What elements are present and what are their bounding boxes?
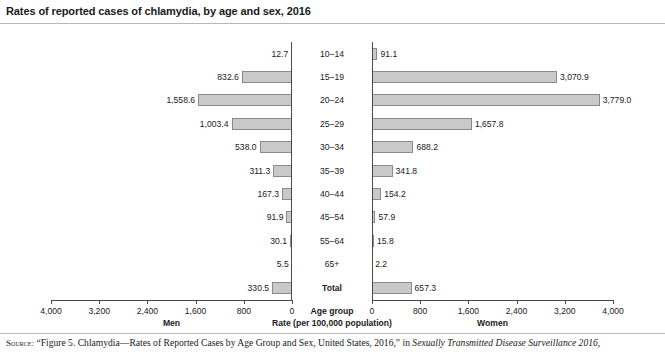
men-bar-cell: 311.3: [0, 165, 292, 177]
women-bar: [372, 94, 600, 106]
women-bar-wrap: 154.2: [372, 188, 665, 200]
men-value-label: 5.5: [277, 259, 292, 269]
men-bar-wrap: 538.0: [0, 141, 292, 153]
axis-tick: [147, 300, 148, 304]
page-title: Rates of reported cases of chlamydia, by…: [6, 5, 311, 17]
women-value-label: 1,657.8: [472, 119, 504, 129]
men-value-label: 1,003.4: [200, 119, 232, 129]
men-bar-cell: 12.7: [0, 48, 292, 60]
age-group-label: 65+: [292, 259, 372, 269]
men-value-label: 30.1: [270, 236, 290, 246]
bar-row: 5.565+2.2: [0, 253, 665, 276]
women-bar-wrap: 15.8: [372, 235, 665, 247]
men-bar-wrap: 1,003.4: [0, 118, 292, 130]
women-bar-wrap: 688.2: [372, 141, 665, 153]
women-bar: [372, 71, 557, 83]
women-value-label: 91.1: [377, 49, 397, 59]
men-bar: [273, 165, 292, 177]
women-value-label: 154.2: [381, 189, 406, 199]
bar-rows: 12.710–1491.1832.615–193,070.91,558.620–…: [0, 42, 665, 299]
men-value-label: 330.5: [248, 283, 273, 293]
source-text: “Figure 5. Chlamydia—Rates of Reported C…: [34, 337, 412, 348]
rate-axis-label: Rate (per 100,000 population): [272, 318, 392, 328]
bar-row: 1,003.425–291,657.8: [0, 112, 665, 135]
axis-tick-label: 800: [413, 306, 427, 316]
women-value-label: 341.8: [393, 166, 418, 176]
right-axis-spine: [372, 42, 373, 300]
age-group-label: 45–54: [292, 212, 372, 222]
axis-tick-label: 0: [370, 306, 375, 316]
women-bar-cell: 2.2: [372, 258, 665, 270]
women-bar-cell: 154.2: [372, 188, 665, 200]
axis-tick-label: 0: [290, 306, 295, 316]
bar-row: 330.5Total657.3: [0, 276, 665, 299]
age-group-label: 40–44: [292, 189, 372, 199]
women-bar-cell: 3,779.0: [372, 94, 665, 106]
source-publication: Sexually Transmitted Disease Surveillanc…: [412, 337, 600, 348]
men-bar-cell: 832.6: [0, 71, 292, 83]
men-bar: [198, 94, 292, 106]
bar-row: 167.340–44154.2: [0, 182, 665, 205]
men-bar: [242, 71, 292, 83]
axis-tick: [565, 300, 566, 304]
axis-tick: [292, 300, 293, 304]
women-bar-cell: 688.2: [372, 141, 665, 153]
axis-tick-label: 1,600: [458, 306, 480, 316]
men-bar-wrap: 1,558.6: [0, 94, 292, 106]
men-axis-title: Men: [163, 318, 180, 328]
men-value-label: 1,558.6: [166, 95, 198, 105]
axis-tick-label: 4,000: [602, 306, 624, 316]
women-value-label: 57.9: [375, 212, 395, 222]
women-bar-wrap: 657.3: [372, 282, 665, 294]
men-bar-cell: 538.0: [0, 141, 292, 153]
age-group-label: 25–29: [292, 119, 372, 129]
women-bar: [372, 188, 381, 200]
axis-tick: [196, 300, 197, 304]
women-bar-wrap: 3,779.0: [372, 94, 665, 106]
women-axis-title: Women: [477, 318, 508, 328]
men-value-label: 91.9: [267, 212, 287, 222]
women-value-label: 2.2: [372, 259, 387, 269]
women-bar-wrap: 1,657.8: [372, 118, 665, 130]
men-axis-line: [51, 300, 292, 301]
men-bar-wrap: 311.3: [0, 165, 292, 177]
axis-tick-label: 1,600: [185, 306, 207, 316]
men-bar: [272, 282, 292, 294]
women-bar-cell: 3,070.9: [372, 71, 665, 83]
women-bar-cell: 341.8: [372, 165, 665, 177]
bar-row: 91.945–5457.9: [0, 206, 665, 229]
women-bar-wrap: 341.8: [372, 165, 665, 177]
age-group-label: 20–24: [292, 95, 372, 105]
axis-tick: [372, 300, 373, 304]
chart-plot-area: 12.710–1491.1832.615–193,070.91,558.620–…: [0, 42, 665, 300]
men-value-label: 832.6: [217, 72, 242, 82]
bar-row: 538.030–34688.2: [0, 136, 665, 159]
men-bar-cell: 5.5: [0, 258, 292, 270]
women-value-label: 688.2: [413, 142, 438, 152]
men-bar-cell: 91.9: [0, 211, 292, 223]
men-bar-wrap: 832.6: [0, 71, 292, 83]
axis-tick: [51, 300, 52, 304]
men-bar-cell: 1,003.4: [0, 118, 292, 130]
men-bar-wrap: 30.1: [0, 235, 292, 247]
axis-tick-label: 800: [237, 306, 251, 316]
men-value-label: 12.7: [272, 49, 292, 59]
title-divider: [0, 23, 665, 24]
bar-row: 311.335–39341.8: [0, 159, 665, 182]
axis-tick-label: 3,200: [88, 306, 110, 316]
women-bar: [372, 165, 393, 177]
women-bar: [372, 141, 413, 153]
age-group-label: 10–14: [292, 49, 372, 59]
bar-row: 1,558.620–243,779.0: [0, 89, 665, 112]
women-bar-wrap: 91.1: [372, 48, 665, 60]
axis-tick-label: 4,000: [40, 306, 62, 316]
age-group-label: 35–39: [292, 166, 372, 176]
women-bar-cell: 1,657.8: [372, 118, 665, 130]
women-value-label: 3,070.9: [557, 72, 589, 82]
bar-row: 832.615–193,070.9: [0, 65, 665, 88]
men-value-label: 538.0: [235, 142, 260, 152]
women-bar-cell: 15.8: [372, 235, 665, 247]
men-value-label: 167.3: [257, 189, 282, 199]
women-value-label: 15.8: [374, 236, 394, 246]
women-bar: [372, 282, 412, 294]
